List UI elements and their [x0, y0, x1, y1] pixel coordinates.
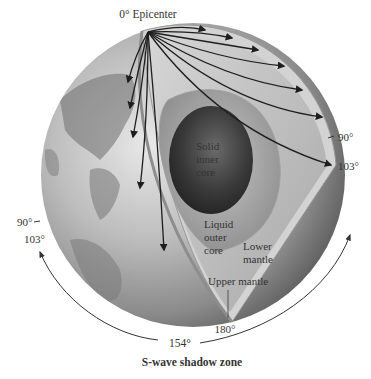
angle-90-right: 90°	[338, 131, 353, 143]
angle-103-left: 103°	[24, 233, 45, 245]
lower-mantle-label-2: mantle	[243, 253, 273, 265]
inner-core-label-2: inner	[196, 153, 219, 165]
tick-90-left	[34, 221, 40, 222]
outer-core-label-2: outer	[204, 231, 227, 243]
angle-154: 154°	[169, 337, 191, 349]
outer-core-label-3: core	[204, 244, 223, 256]
lower-mantle-label-1: Lower	[243, 240, 272, 252]
epicenter-label: 0° Epicenter	[119, 8, 176, 21]
angle-103-right: 103°	[338, 160, 359, 172]
angle-180: 180°	[215, 323, 236, 335]
outer-core-label-1: Liquid	[204, 218, 234, 230]
angle-90-left: 90°	[17, 216, 32, 228]
s-wave-diagram: 0° Epicenter Solid inner core Liquid out…	[0, 0, 371, 379]
inner-core-label-1: Solid	[196, 140, 220, 152]
upper-mantle-label: Upper mantle	[208, 275, 268, 287]
inner-core-label-3: core	[196, 166, 215, 178]
diagram-title: S-wave shadow zone	[142, 356, 242, 368]
